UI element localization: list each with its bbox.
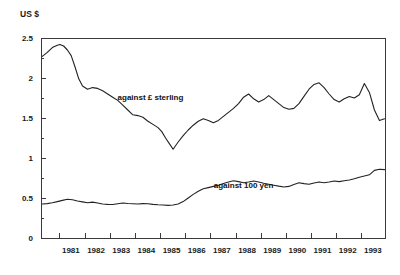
y-axis-tick-labels: 00.511.522.5 <box>22 34 34 243</box>
y-tick-label: 1 <box>29 154 34 163</box>
series-annotation-label: against £ sterling <box>118 93 184 102</box>
x-tick-label: 1983 <box>112 246 130 255</box>
series-line-sterling <box>42 44 384 149</box>
y-axis-title: US $ <box>20 9 39 19</box>
y-tick-label: 2.5 <box>22 34 34 43</box>
x-tick-label: 1991 <box>314 246 332 255</box>
x-tick-label: 1985 <box>163 246 181 255</box>
y-tick-label: 0.5 <box>22 194 34 203</box>
y-tick-label: 1.5 <box>22 114 34 123</box>
y-tick-label: 0 <box>29 234 34 243</box>
x-tick-label: 1981 <box>62 246 80 255</box>
chart-page: US $ 00.511.522.5 1981198219831984198519… <box>0 0 400 275</box>
x-tick-label: 1993 <box>364 246 382 255</box>
y-tick-label: 2 <box>29 74 34 83</box>
x-axis-tick-labels: 1981198219831984198519861987198819891990… <box>62 246 382 255</box>
x-tick-label: 1987 <box>213 246 231 255</box>
exchange-rate-line-chart: US $ 00.511.522.5 1981198219831984198519… <box>0 0 400 275</box>
x-tick-label: 1989 <box>263 246 281 255</box>
series-annotation-label: against 100 yen <box>214 181 274 190</box>
x-tick-label: 1986 <box>188 246 206 255</box>
series-annotations: against £ sterlingagainst 100 yen <box>118 93 274 190</box>
x-tick-label: 1982 <box>87 246 105 255</box>
x-axis-tick-marks <box>60 233 362 238</box>
y-axis-tick-marks <box>41 38 46 238</box>
x-tick-label: 1992 <box>339 246 357 255</box>
plot-frame <box>41 38 385 238</box>
x-tick-label: 1988 <box>238 246 256 255</box>
x-tick-label: 1984 <box>137 246 155 255</box>
x-tick-label: 1990 <box>288 246 306 255</box>
